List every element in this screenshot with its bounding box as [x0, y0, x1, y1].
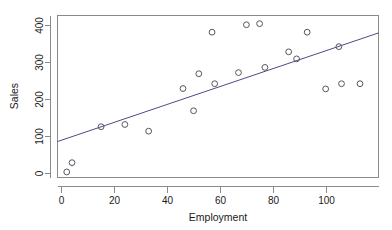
x-tick-label: 100: [318, 195, 335, 206]
y-tick-label: 300: [34, 54, 45, 71]
x-tick-label: 20: [109, 195, 121, 206]
data-point: [357, 81, 363, 87]
data-point: [196, 71, 202, 77]
x-tick-label: 40: [162, 195, 174, 206]
data-point: [304, 29, 310, 35]
data-point: [191, 108, 197, 114]
y-tick-label: 200: [34, 91, 45, 108]
data-points-group: [64, 21, 363, 175]
data-point: [339, 81, 345, 87]
y-tick-label: 100: [34, 128, 45, 145]
x-tick-label: 0: [59, 195, 65, 206]
data-point: [212, 81, 218, 87]
data-point: [146, 128, 152, 134]
y-axis-ticks: 0100200300400: [34, 17, 51, 177]
data-point: [257, 21, 263, 27]
regression-line-group: [58, 33, 379, 142]
data-point: [236, 70, 242, 76]
scatter-plot-figure: 0100200300400 020406080100 Sales Employm…: [0, 0, 392, 230]
data-point: [180, 86, 186, 92]
data-point: [244, 22, 250, 28]
x-tick-label: 60: [215, 195, 227, 206]
x-axis-title: Employment: [189, 211, 247, 223]
data-point: [122, 122, 128, 128]
plot-frame: [58, 16, 379, 178]
data-point: [286, 49, 292, 55]
x-axis-ticks: 020406080100: [59, 187, 336, 207]
regression-line: [58, 33, 379, 142]
y-axis-title: Sales: [8, 83, 20, 109]
chart-canvas: 0100200300400 020406080100 Sales Employm…: [0, 0, 392, 230]
y-tick-label: 0: [34, 170, 45, 176]
y-tick-label: 400: [34, 17, 45, 34]
data-point: [64, 169, 70, 175]
x-tick-label: 80: [268, 195, 280, 206]
data-point: [262, 64, 268, 70]
data-point: [69, 160, 75, 166]
data-point: [209, 29, 215, 35]
data-point: [323, 86, 329, 92]
